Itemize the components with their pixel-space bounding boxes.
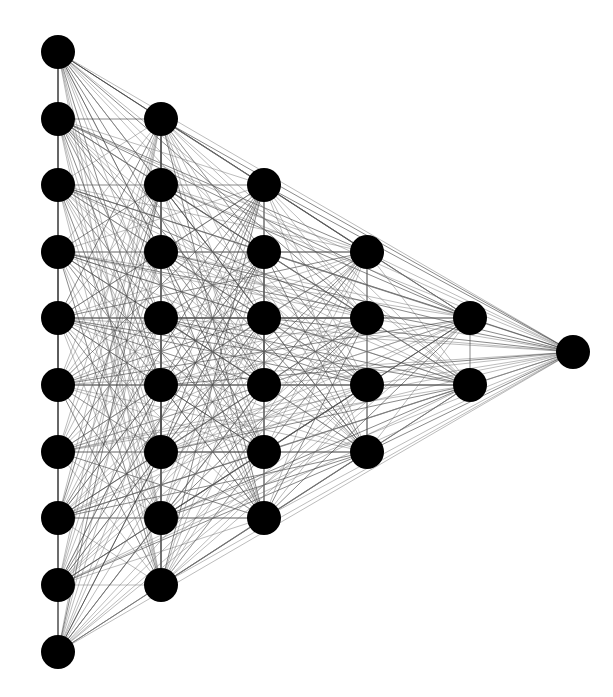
layer-2-node-5 xyxy=(144,368,178,402)
network-diagram xyxy=(0,0,613,697)
layer-1-node-3 xyxy=(41,168,75,202)
layer-1-node-9 xyxy=(41,568,75,602)
layer-4-node-2 xyxy=(350,301,384,335)
layer-1-node-5 xyxy=(41,301,75,335)
layer-4-node-1 xyxy=(350,235,384,269)
layer-5-node-2 xyxy=(453,368,487,402)
layer-3-node-3 xyxy=(247,301,281,335)
layer-3-node-5 xyxy=(247,435,281,469)
layer-3-node-6 xyxy=(247,501,281,535)
layer-2-node-2 xyxy=(144,168,178,202)
layer-6-node-1 xyxy=(556,335,590,369)
layer-5-node-1 xyxy=(453,301,487,335)
layer-2-node-3 xyxy=(144,235,178,269)
layer-3-node-2 xyxy=(247,235,281,269)
layer-2-node-6 xyxy=(144,435,178,469)
layer-3-node-4 xyxy=(247,368,281,402)
layer-1-node-6 xyxy=(41,368,75,402)
layer-1-node-2 xyxy=(41,102,75,136)
layer-1-node-8 xyxy=(41,501,75,535)
layer-2-node-1 xyxy=(144,102,178,136)
layer-2-node-8 xyxy=(144,568,178,602)
layer-1-node-7 xyxy=(41,435,75,469)
layer-4-node-3 xyxy=(350,368,384,402)
layer-3-node-1 xyxy=(247,168,281,202)
layer-4-node-4 xyxy=(350,435,384,469)
layer-2-node-4 xyxy=(144,301,178,335)
layer-1-node-4 xyxy=(41,235,75,269)
layer-1-node-10 xyxy=(41,635,75,669)
layer-1-node-1 xyxy=(41,35,75,69)
layer-2-node-7 xyxy=(144,501,178,535)
